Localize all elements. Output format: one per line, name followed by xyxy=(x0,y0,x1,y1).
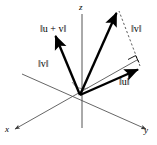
axis-label-y: y xyxy=(144,126,148,135)
vector-diagram-figure: ‖u + v‖ ‖v‖ ‖v‖ ‖u‖ x y z xyxy=(0,0,157,145)
label-norm-v-left: ‖v‖ xyxy=(38,59,49,69)
label-norm-u-plus-v: ‖u + v‖ xyxy=(40,24,66,34)
vector-v-left xyxy=(56,36,81,95)
axis-label-z: z xyxy=(79,3,83,12)
axis-x xyxy=(15,60,137,129)
label-norm-v-right: ‖v‖ xyxy=(131,24,142,34)
axis-label-x: x xyxy=(5,125,9,134)
label-norm-u: ‖u‖ xyxy=(119,77,130,87)
vector-diagram-canvas xyxy=(0,0,157,145)
vector-u-plus-v xyxy=(80,13,117,95)
